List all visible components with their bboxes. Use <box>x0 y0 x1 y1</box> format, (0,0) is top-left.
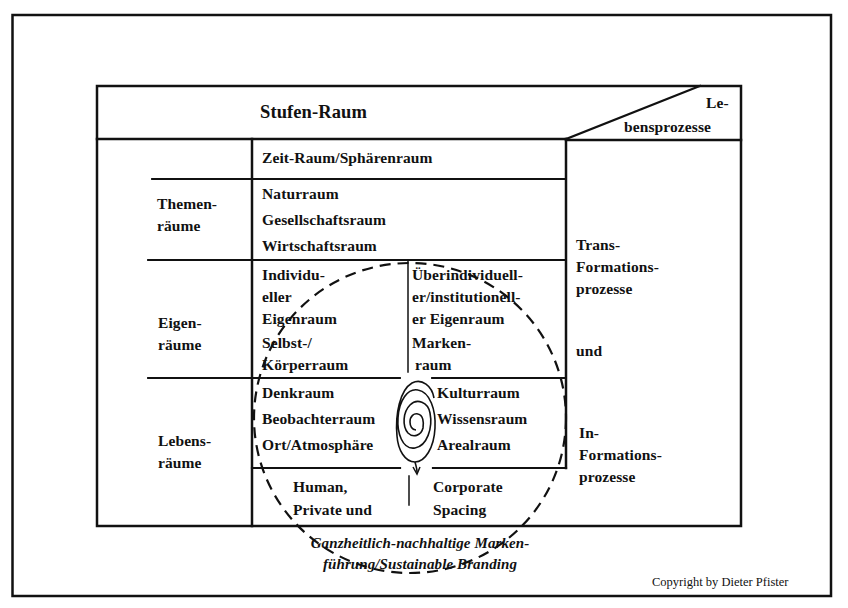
process-line: In- <box>579 422 662 444</box>
caption-line: Ganzheitlich-nachhaltige Marken- <box>250 533 590 554</box>
spiral-icon <box>397 381 436 474</box>
cell-line: Private und <box>293 498 372 521</box>
header-corner-bottom: bensprozesse <box>624 116 711 138</box>
cell-corporate-spacing: Corporate Spacing <box>433 475 503 521</box>
header-corner-top: Le- <box>706 92 729 114</box>
cell-line: Überindividuell- <box>412 264 523 286</box>
cell-line: Corporate <box>433 475 503 498</box>
cell-line: Wirtschaftsraum <box>262 233 386 259</box>
diagram-canvas: Stufen-Raum Le- bensprozesse Themen- räu… <box>0 0 848 608</box>
caption-line: führung/Sustainable Branding <box>250 554 590 575</box>
cell-lebens-left: Denkraum Beobachterraum Ort/Atmosphäre <box>262 380 375 458</box>
label-line: räume <box>157 215 217 237</box>
cell-line: Individu- <box>262 264 348 286</box>
cell-zeit-raum: Zeit-Raum/Sphärenraum <box>262 147 433 169</box>
cell-human-private: Human, Private und <box>293 475 372 521</box>
label-line: Eigen- <box>158 312 202 334</box>
label-line: räume <box>158 452 211 474</box>
cell-line: Ort/Atmosphäre <box>262 432 375 458</box>
cell-line: Eigenraum <box>262 308 348 330</box>
label-lebensraeume: Lebens- räume <box>158 430 211 474</box>
process-line: prozesse <box>576 278 659 300</box>
process-und: und <box>576 340 602 362</box>
label-eigenraeume: Eigen- räume <box>158 312 202 356</box>
cell-line: Körperraum <box>262 354 348 376</box>
cell-line: Arealraum <box>437 432 527 458</box>
cell-eigen-left: Individu- eller Eigenraum Selbst-/ Körpe… <box>262 264 348 376</box>
cell-line: Beobachterraum <box>262 406 375 432</box>
process-line: prozesse <box>579 466 662 488</box>
cell-line: Human, <box>293 475 372 498</box>
label-themenraeume: Themen- räume <box>157 193 217 237</box>
cell-eigen-right: Überindividuell- er/institutionell- er E… <box>412 264 523 376</box>
cell-line: Selbst-/ <box>262 332 348 354</box>
cell-line: eller <box>262 286 348 308</box>
process-line: Formations- <box>576 256 659 278</box>
label-line: räume <box>158 334 202 356</box>
cell-line: er Eigenraum <box>412 308 523 330</box>
cell-line: Denkraum <box>262 380 375 406</box>
cell-line: er/institutionell- <box>412 286 523 308</box>
copyright: Copyright by Dieter Pfister <box>652 575 788 590</box>
cell-line: Wissensraum <box>437 406 527 432</box>
process-trans: Trans- Formations- prozesse <box>576 234 659 300</box>
cell-themen: Naturraum Gesellschaftsraum Wirtschaftsr… <box>262 181 386 259</box>
cell-line: Kulturraum <box>437 380 527 406</box>
cell-line: Naturraum <box>262 181 386 207</box>
label-line: Lebens- <box>158 430 211 452</box>
cell-line: Gesellschaftsraum <box>262 207 386 233</box>
cell-line: Marken- <box>412 332 523 354</box>
process-line: Trans- <box>576 234 659 256</box>
process-line: Formations- <box>579 444 662 466</box>
process-in: In- Formations- prozesse <box>579 422 662 488</box>
cell-line: Spacing <box>433 498 503 521</box>
label-line: Themen- <box>157 193 217 215</box>
caption: Ganzheitlich-nachhaltige Marken- führung… <box>250 533 590 575</box>
cell-lebens-right: Kulturraum Wissensraum Arealraum <box>437 380 527 458</box>
cell-line: raum <box>412 354 523 376</box>
header-title: Stufen-Raum <box>260 101 367 123</box>
